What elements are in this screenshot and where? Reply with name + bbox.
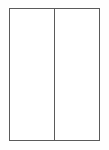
left-pane[interactable] (10, 9, 54, 140)
figure-canvas (0, 0, 109, 150)
two-pane-frame (9, 8, 100, 141)
right-pane[interactable] (55, 9, 99, 140)
